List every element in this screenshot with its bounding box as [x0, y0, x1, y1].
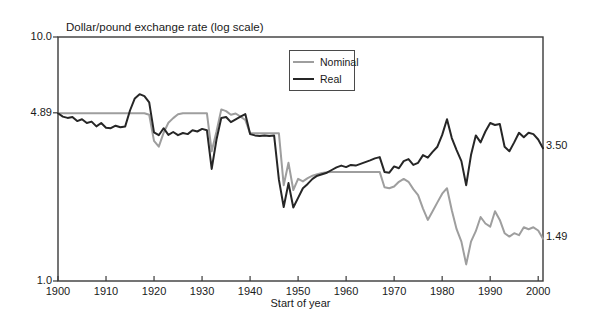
exchange-rate-chart: Dollar/pound exchange rate (log scale) 1…	[0, 0, 594, 336]
y-tick-label-4.89: 4.89	[16, 106, 52, 119]
x-axis-title: Start of year	[250, 297, 351, 310]
end-label-nominal: 1.49	[546, 230, 567, 243]
legend: Nominal Real	[289, 50, 355, 91]
legend-entry-nominal: Nominal	[293, 54, 354, 70]
real-line-swatch	[293, 78, 314, 80]
x-tick-label-1970: 1970	[374, 285, 414, 298]
nominal-line-swatch	[293, 61, 314, 63]
real-line	[58, 94, 543, 207]
end-label-real: 3.50	[546, 139, 567, 152]
x-tick-label-1990: 1990	[470, 285, 510, 298]
nominal-line	[58, 109, 543, 264]
y-tick-label-10.0: 10.0	[16, 30, 52, 43]
x-tick-label-1900: 1900	[38, 285, 78, 298]
x-tick-label-1980: 1980	[422, 285, 462, 298]
x-tick-label-2000: 2000	[518, 285, 558, 298]
x-tick-label-1930: 1930	[182, 285, 222, 298]
legend-entry-real: Real	[293, 71, 354, 87]
legend-label-real: Real	[320, 73, 342, 85]
x-tick-label-1910: 1910	[86, 285, 126, 298]
x-tick-label-1920: 1920	[134, 285, 174, 298]
legend-label-nominal: Nominal	[320, 56, 359, 68]
